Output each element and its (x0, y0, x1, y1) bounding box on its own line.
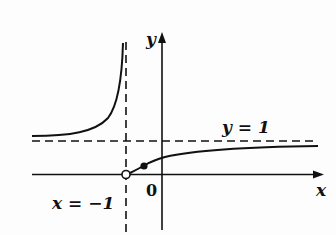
x-axis-arrow-icon (313, 171, 324, 179)
left-branch (32, 43, 123, 136)
open-point (122, 171, 130, 179)
function-graph-figure: y x 0 y = 1 x = −1 (0, 0, 336, 235)
vertical-asymptote-label: x = −1 (51, 193, 114, 213)
right-branch (130, 146, 318, 173)
y-axis-arrow-icon (158, 32, 166, 43)
filled-point (140, 162, 147, 169)
origin-label: 0 (146, 181, 157, 200)
y-axis-label: y (145, 29, 157, 49)
horizontal-asymptote-label: y = 1 (221, 117, 270, 137)
graph-canvas: y x 0 y = 1 x = −1 (0, 0, 336, 235)
x-axis-label: x (315, 180, 327, 200)
